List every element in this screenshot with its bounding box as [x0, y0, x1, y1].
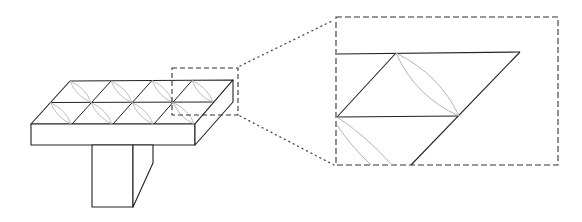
magnified-grid — [337, 52, 520, 165]
mag-right-edge — [411, 52, 520, 165]
zoom-connectors — [240, 20, 334, 165]
figure-canvas — [0, 0, 582, 222]
stem-front-face — [92, 145, 133, 207]
t-beam — [31, 80, 233, 207]
mag-mid-line — [337, 116, 459, 117]
mag-top-edge — [337, 52, 520, 54]
mag-divider-left — [337, 53, 396, 117]
connector-top — [240, 20, 334, 66]
magnified-view — [336, 17, 558, 165]
magnified-ellipses — [337, 53, 459, 165]
slab-front-face — [31, 124, 195, 145]
magnified-box — [336, 17, 558, 165]
connector-bottom — [240, 116, 334, 165]
stem-side-face — [133, 145, 153, 207]
